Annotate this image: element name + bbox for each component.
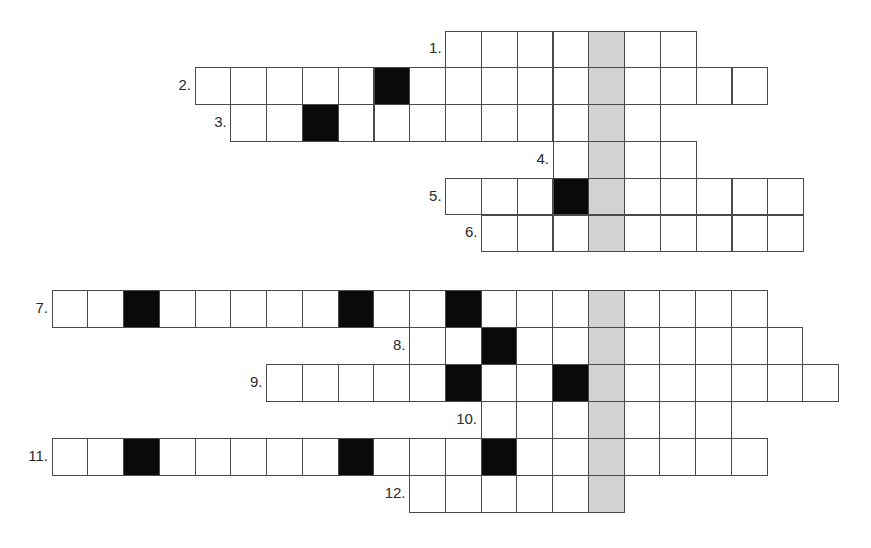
letter-cell[interactable] (731, 327, 768, 365)
letter-cell[interactable] (302, 364, 339, 402)
letter-cell[interactable] (230, 438, 267, 476)
letter-cell[interactable] (87, 290, 124, 328)
letter-cell[interactable] (517, 67, 554, 105)
letter-cell[interactable] (553, 104, 590, 142)
letter-cell[interactable] (481, 178, 518, 216)
letter-cell[interactable] (52, 290, 89, 328)
letter-cell[interactable] (445, 104, 482, 142)
letter-cell[interactable] (732, 215, 769, 253)
letter-cell[interactable] (230, 290, 267, 328)
letter-cell[interactable] (696, 67, 733, 105)
letter-cell[interactable] (659, 401, 696, 439)
highlighted-letter-cell[interactable] (588, 141, 625, 179)
letter-cell[interactable] (445, 178, 482, 216)
letter-cell[interactable] (481, 104, 518, 142)
letter-cell[interactable] (695, 438, 732, 476)
letter-cell[interactable] (731, 364, 768, 402)
letter-cell[interactable] (481, 401, 518, 439)
highlighted-letter-cell[interactable] (588, 438, 625, 476)
letter-cell[interactable] (767, 364, 804, 402)
letter-cell[interactable] (552, 290, 589, 328)
letter-cell[interactable] (409, 438, 446, 476)
letter-cell[interactable] (659, 438, 696, 476)
letter-cell[interactable] (696, 215, 733, 253)
letter-cell[interactable] (266, 438, 303, 476)
highlighted-letter-cell[interactable] (588, 104, 625, 142)
letter-cell[interactable] (266, 364, 303, 402)
letter-cell[interactable] (624, 290, 661, 328)
letter-cell[interactable] (445, 475, 482, 513)
letter-cell[interactable] (767, 215, 804, 253)
letter-cell[interactable] (52, 438, 89, 476)
letter-cell[interactable] (266, 104, 303, 142)
letter-cell[interactable] (516, 401, 553, 439)
letter-cell[interactable] (445, 327, 482, 365)
highlighted-letter-cell[interactable] (588, 401, 625, 439)
letter-cell[interactable] (552, 401, 589, 439)
letter-cell[interactable] (266, 67, 303, 105)
letter-cell[interactable] (767, 178, 804, 216)
letter-cell[interactable] (374, 104, 411, 142)
letter-cell[interactable] (517, 31, 554, 69)
letter-cell[interactable] (302, 290, 339, 328)
letter-cell[interactable] (624, 215, 661, 253)
letter-cell[interactable] (624, 31, 661, 69)
letter-cell[interactable] (481, 475, 518, 513)
letter-cell[interactable] (409, 364, 446, 402)
letter-cell[interactable] (302, 438, 339, 476)
letter-cell[interactable] (338, 67, 375, 105)
letter-cell[interactable] (87, 438, 124, 476)
letter-cell[interactable] (516, 290, 553, 328)
letter-cell[interactable] (373, 290, 410, 328)
highlighted-letter-cell[interactable] (588, 215, 625, 253)
letter-cell[interactable] (516, 475, 553, 513)
letter-cell[interactable] (552, 475, 589, 513)
letter-cell[interactable] (624, 438, 661, 476)
letter-cell[interactable] (695, 364, 732, 402)
letter-cell[interactable] (553, 141, 590, 179)
letter-cell[interactable] (266, 290, 303, 328)
letter-cell[interactable] (195, 290, 232, 328)
letter-cell[interactable] (516, 327, 553, 365)
letter-cell[interactable] (338, 364, 375, 402)
letter-cell[interactable] (659, 364, 696, 402)
letter-cell[interactable] (230, 104, 267, 142)
letter-cell[interactable] (732, 178, 769, 216)
letter-cell[interactable] (767, 327, 804, 365)
letter-cell[interactable] (624, 104, 661, 142)
letter-cell[interactable] (195, 438, 232, 476)
highlighted-letter-cell[interactable] (588, 31, 625, 69)
letter-cell[interactable] (338, 104, 375, 142)
letter-cell[interactable] (695, 401, 732, 439)
letter-cell[interactable] (409, 104, 446, 142)
letter-cell[interactable] (660, 141, 697, 179)
letter-cell[interactable] (624, 401, 661, 439)
letter-cell[interactable] (445, 438, 482, 476)
letter-cell[interactable] (481, 31, 518, 69)
letter-cell[interactable] (802, 364, 839, 402)
letter-cell[interactable] (660, 31, 697, 69)
highlighted-letter-cell[interactable] (588, 67, 625, 105)
letter-cell[interactable] (624, 67, 661, 105)
highlighted-letter-cell[interactable] (588, 327, 625, 365)
letter-cell[interactable] (696, 178, 733, 216)
letter-cell[interactable] (553, 215, 590, 253)
letter-cell[interactable] (409, 327, 446, 365)
letter-cell[interactable] (517, 178, 554, 216)
letter-cell[interactable] (552, 327, 589, 365)
letter-cell[interactable] (624, 364, 661, 402)
letter-cell[interactable] (481, 215, 518, 253)
letter-cell[interactable] (553, 67, 590, 105)
letter-cell[interactable] (695, 327, 732, 365)
letter-cell[interactable] (695, 290, 732, 328)
letter-cell[interactable] (409, 67, 446, 105)
letter-cell[interactable] (195, 67, 232, 105)
letter-cell[interactable] (660, 215, 697, 253)
highlighted-letter-cell[interactable] (588, 364, 625, 402)
letter-cell[interactable] (159, 438, 196, 476)
letter-cell[interactable] (230, 67, 267, 105)
letter-cell[interactable] (659, 290, 696, 328)
letter-cell[interactable] (553, 31, 590, 69)
letter-cell[interactable] (659, 327, 696, 365)
letter-cell[interactable] (660, 67, 697, 105)
